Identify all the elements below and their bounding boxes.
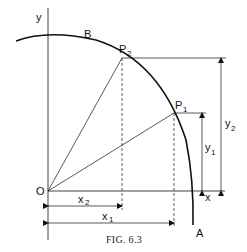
svg-text:1: 1 <box>211 148 216 157</box>
radius-op1 <box>48 113 174 191</box>
svg-text:x: x <box>78 193 84 205</box>
svg-text:1: 1 <box>109 215 114 224</box>
x-axis-label: x <box>205 191 211 203</box>
dimension-y2-label: y 2 <box>225 117 236 133</box>
origin-label: O <box>36 185 45 197</box>
svg-text:x: x <box>102 210 108 222</box>
figure-diagram: y x O B A P 2 P 1 y 2 y 1 x 2 x 1 FIG. 6… <box>0 0 247 252</box>
svg-text:P: P <box>175 99 182 111</box>
svg-text:2: 2 <box>85 198 90 207</box>
point-a-label: A <box>196 227 204 239</box>
point-p1-label: P 1 <box>175 99 188 114</box>
figure-caption: FIG. 6.3 <box>106 234 142 245</box>
svg-text:2: 2 <box>231 124 236 133</box>
dimension-y1-label: y 1 <box>205 141 216 157</box>
dimension-x1-label: x 1 <box>102 210 114 224</box>
point-p2-label: P 2 <box>119 43 132 58</box>
point-b-label: B <box>84 28 91 40</box>
svg-text:P: P <box>119 43 126 55</box>
svg-text:2: 2 <box>127 49 132 58</box>
y-axis-label: y <box>36 11 42 23</box>
radius-op2 <box>48 58 122 191</box>
svg-text:1: 1 <box>183 105 188 114</box>
dimension-x2-label: x 2 <box>78 193 90 207</box>
